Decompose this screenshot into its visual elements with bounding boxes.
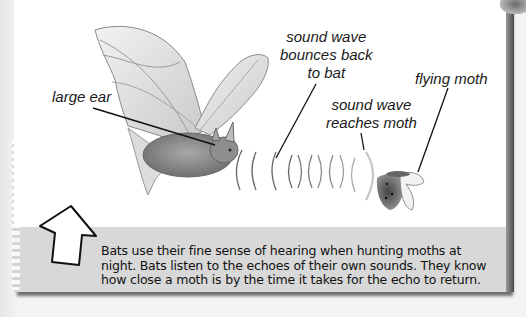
label-sound-wave-bounces: sound wave bounces back to bat: [280, 28, 373, 82]
leader-reaches-moth: [361, 133, 364, 150]
caption-text: Bats use their fine sense of hearing whe…: [101, 244, 511, 288]
moth-wing-light: [400, 172, 424, 210]
wave-arc: [352, 158, 356, 192]
wave-arc: [366, 152, 373, 200]
sound-wave-arcs: [236, 150, 373, 200]
wave-arc: [330, 155, 334, 188]
caption-line: night. Bats listen to the echoes of thei…: [101, 259, 511, 274]
bat-illustration: [95, 26, 268, 195]
label-line: bounces back: [280, 46, 373, 64]
wave-arc: [272, 152, 276, 190]
label-line: to bat: [280, 64, 373, 82]
label-line: sound wave: [326, 96, 417, 114]
moth-illustration: [377, 171, 424, 210]
label-line: reaches moth: [326, 114, 417, 132]
label-sound-wave-reaches: sound wave reaches moth: [326, 96, 417, 132]
caption-line: Bats use their fine sense of hearing whe…: [101, 244, 511, 259]
wave-arc: [298, 155, 302, 188]
bat-ear: [225, 122, 234, 142]
leader-flying-moth: [418, 88, 448, 172]
up-arrow-icon: [40, 206, 96, 265]
label-flying-moth: flying moth: [415, 70, 488, 88]
leader-bounce-back: [276, 84, 316, 158]
label-large-ear: large ear: [52, 88, 111, 106]
wave-arc: [309, 155, 313, 188]
wave-arc: [252, 152, 256, 190]
caption-line: how close a moth is by the time it takes…: [101, 273, 511, 288]
wave-arc: [318, 155, 322, 188]
wave-arc: [289, 155, 293, 188]
label-line: sound wave: [280, 28, 373, 46]
wave-arc: [340, 155, 344, 188]
wave-arc: [236, 150, 242, 190]
